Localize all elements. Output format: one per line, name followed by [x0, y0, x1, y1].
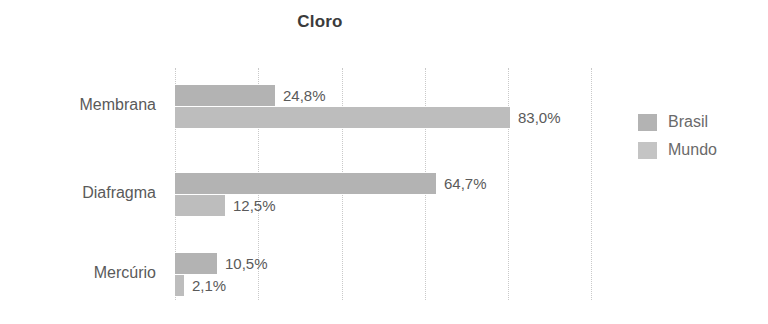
y-axis-category-labels: Membrana Diafragma Mercúrio — [0, 68, 166, 300]
chart-title: Cloro — [0, 12, 640, 32]
gridline-4 — [508, 68, 509, 300]
category-label-membrana: Membrana — [80, 96, 156, 114]
gridline-5 — [591, 68, 592, 300]
bar-membrana-mundo[interactable] — [175, 107, 510, 128]
bar-mercurio-brasil[interactable] — [175, 253, 217, 274]
category-label-diafragma: Diafragma — [82, 184, 156, 202]
legend-label-brasil: Brasil — [668, 113, 708, 131]
chart-legend: Brasil Mundo — [638, 108, 766, 164]
bar-value-mercurio-mundo: 2,1% — [192, 275, 226, 296]
legend-label-mundo: Mundo — [668, 141, 717, 159]
chart-container: Cloro Membrana Diafragma Mercúrio 24,8% … — [0, 0, 768, 324]
bar-diafragma-mundo[interactable] — [175, 195, 225, 216]
legend-swatch-brasil-icon — [638, 114, 657, 131]
bar-diafragma-brasil[interactable] — [175, 173, 436, 194]
legend-item-mundo[interactable]: Mundo — [638, 136, 766, 164]
bar-value-mercurio-brasil: 10,5% — [225, 253, 268, 274]
bar-value-membrana-brasil: 24,8% — [283, 85, 326, 106]
legend-swatch-mundo-icon — [638, 142, 657, 159]
plot-area: 24,8% 83,0% 64,7% 12,5% 10,5% 2,1% — [175, 68, 591, 300]
legend-item-brasil[interactable]: Brasil — [638, 108, 766, 136]
bar-value-diafragma-mundo: 12,5% — [233, 195, 276, 216]
category-label-mercurio: Mercúrio — [94, 264, 156, 282]
bar-mercurio-mundo[interactable] — [175, 275, 184, 296]
bar-value-diafragma-brasil: 64,7% — [444, 173, 487, 194]
bar-membrana-brasil[interactable] — [175, 85, 275, 106]
bar-value-membrana-mundo: 83,0% — [518, 107, 561, 128]
